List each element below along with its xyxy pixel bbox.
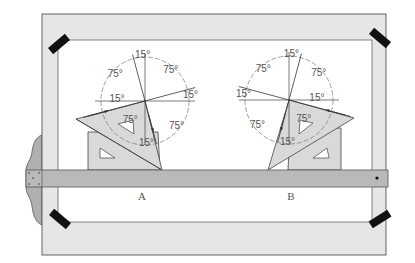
drafting-diagram: 15°75°15°75°15°75°15°75° 15°75°15°75°15°…	[0, 0, 415, 263]
angle-label: 75°	[256, 63, 271, 74]
angle-label: 15°	[139, 137, 154, 148]
angle-label: 75°	[250, 119, 265, 130]
angle-label: 75°	[311, 67, 326, 78]
t-square-blade	[26, 170, 388, 187]
angle-label: 15°	[309, 92, 324, 103]
angle-label: 15°	[135, 49, 150, 60]
caption-a: A	[138, 190, 146, 202]
angle-label: 75°	[123, 114, 138, 125]
angle-label: 75°	[163, 64, 178, 75]
angle-label: 75°	[169, 120, 184, 131]
angle-label: 75°	[296, 113, 311, 124]
angle-label: 15°	[284, 48, 299, 59]
t-square-hang-hole	[375, 176, 378, 179]
angle-label: 15°	[280, 136, 295, 147]
angle-label: 15°	[110, 93, 125, 104]
angle-label: 15°	[183, 89, 198, 100]
angle-label: 15°	[236, 88, 251, 99]
angle-label: 75°	[108, 68, 123, 79]
caption-b: B	[287, 190, 294, 202]
